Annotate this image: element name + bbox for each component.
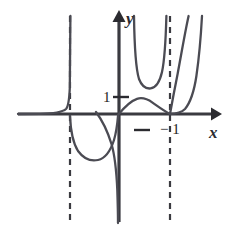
curve-lower-loop	[70, 116, 118, 160]
curve-left-tail-to-asymptote	[18, 16, 70, 114]
tick-label-negative-one: − 1	[160, 122, 180, 137]
x-axis-label: x	[209, 124, 218, 141]
curve-steep-drop-to-y-axis	[96, 112, 118, 223]
axes-group	[18, 10, 222, 222]
curve-right-up-branch	[170, 16, 189, 114]
tick-label-one: 1	[103, 90, 111, 105]
y-axis-arrow-icon	[113, 10, 126, 22]
graph-figure: y x 1 − 1	[0, 0, 243, 244]
x-axis-arrow-icon	[211, 108, 222, 121]
curve-u-branch	[134, 16, 166, 88]
plot-canvas	[0, 0, 243, 244]
curve-group	[18, 16, 202, 223]
y-axis-label: y	[126, 10, 134, 27]
